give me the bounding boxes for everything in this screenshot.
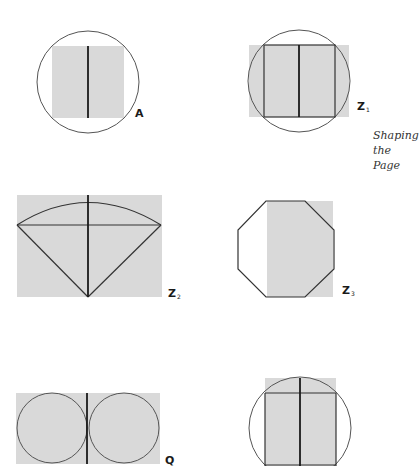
figure-q (16, 393, 160, 464)
figure-z3 (238, 201, 334, 297)
figure-z1 (248, 30, 350, 132)
label-z2: Z2 (168, 288, 181, 300)
label-z2-text: Z (168, 287, 176, 300)
label-q: Q (165, 455, 174, 466)
figure-z2 (17, 195, 162, 297)
caption: Shaping the Page (373, 128, 419, 173)
label-a-text: A (135, 107, 144, 120)
label-q-text: Q (165, 454, 174, 466)
label-z1: Z1 (357, 101, 370, 113)
figure-z4 (249, 377, 351, 466)
figure-q-page (16, 393, 160, 464)
caption-line-1: Shaping (373, 128, 419, 143)
label-z3: Z3 (342, 285, 355, 297)
caption-line-3: Page (373, 158, 419, 173)
figure-z3-page (267, 201, 333, 297)
label-z1-subscript: 1 (366, 106, 370, 113)
label-z3-subscript: 3 (351, 290, 355, 297)
label-z3-text: Z (342, 284, 350, 297)
caption-line-2: the (373, 143, 419, 158)
label-a: A (135, 108, 144, 119)
figure-a (37, 31, 139, 133)
label-z1-text: Z (357, 100, 365, 113)
label-z2-subscript: 2 (177, 293, 181, 300)
